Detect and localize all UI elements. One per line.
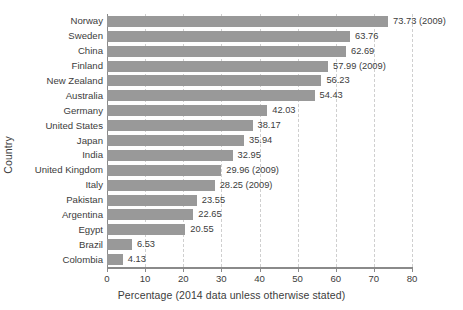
bar-value-label: 63.76 (355, 30, 378, 43)
bar-value-label: 29.96 (2009) (226, 164, 279, 177)
bar (107, 61, 328, 72)
bar-row: 57.99 (2009) (107, 60, 412, 74)
bar-value-label: 22.65 (198, 208, 221, 221)
bar-value-label: 6.53 (137, 238, 155, 251)
bar-row: 56.23 (107, 74, 412, 88)
category-label: Japan (77, 134, 103, 148)
bar-row: 35.94 (107, 134, 412, 148)
bar-row: 54.43 (107, 89, 412, 103)
x-tick-label: 60 (316, 273, 356, 284)
x-tick-label: 40 (240, 273, 280, 284)
category-label: United States (45, 119, 103, 133)
x-tick (412, 267, 413, 272)
category-label: India (82, 148, 103, 162)
bar-value-label: 23.55 (202, 194, 225, 207)
bar (107, 195, 197, 206)
x-tick (145, 267, 146, 272)
x-tick-label: 80 (392, 273, 432, 284)
bar-value-label: 38.17 (258, 119, 281, 132)
bar-row: 23.55 (107, 194, 412, 208)
bar (107, 150, 233, 161)
y-axis-category-labels: NorwaySwedenChinaFinlandNew ZealandAustr… (18, 14, 103, 267)
bar (107, 239, 132, 250)
bar-row: 22.65 (107, 208, 412, 222)
bar (107, 105, 267, 116)
x-tick-label: 20 (163, 273, 203, 284)
bar-row: 29.96 (2009) (107, 164, 412, 178)
x-tick-label: 50 (278, 273, 318, 284)
x-tick-label: 30 (201, 273, 241, 284)
bar (107, 90, 315, 101)
x-tick (183, 267, 184, 272)
bar-row: 62.69 (107, 45, 412, 59)
bar (107, 254, 123, 265)
bar (107, 224, 185, 235)
bar-value-label: 57.99 (2009) (333, 60, 386, 73)
bar-row: 38.17 (107, 119, 412, 133)
bar-row: 63.76 (107, 30, 412, 44)
bar (107, 31, 350, 42)
bar-value-label: 32.95 (238, 149, 261, 162)
bar-value-label: 54.43 (320, 89, 343, 102)
bar (107, 120, 253, 131)
gridline (412, 14, 413, 267)
bar-value-label: 35.94 (249, 134, 272, 147)
category-label: Finland (72, 59, 103, 73)
bar (107, 46, 346, 57)
category-label: Norway (70, 14, 103, 28)
category-label: United Kingdom (35, 163, 103, 177)
category-label: Italy (85, 178, 103, 192)
bar-value-label: 20.55 (190, 223, 213, 236)
category-label: Australia (66, 89, 103, 103)
plot-area: 73.73 (2009)63.7662.6957.99 (2009)56.235… (107, 14, 412, 267)
bar-row: 20.55 (107, 223, 412, 237)
bar-value-label: 4.13 (128, 253, 146, 266)
horizontal-bar-chart: Country NorwaySwedenChinaFinlandNew Zeal… (0, 0, 463, 310)
bar (107, 16, 388, 27)
bar-row: 6.53 (107, 238, 412, 252)
category-label: New Zealand (46, 74, 103, 88)
category-label: Germany (64, 104, 103, 118)
x-tick (107, 267, 108, 272)
bar (107, 75, 321, 86)
category-label: Egypt (78, 223, 103, 237)
bar (107, 165, 221, 176)
bar-row: 32.95 (107, 149, 412, 163)
x-tick-label: 70 (354, 273, 394, 284)
x-tick-label: 10 (125, 273, 165, 284)
bar-value-label: 73.73 (2009) (393, 15, 446, 28)
bar-value-label: 62.69 (351, 45, 374, 58)
x-tick (260, 267, 261, 272)
bar-value-label: 56.23 (326, 74, 349, 87)
category-label: China (78, 44, 103, 58)
bar-row: 73.73 (2009) (107, 15, 412, 29)
bar (107, 209, 193, 220)
x-tick (298, 267, 299, 272)
bar-value-label: 28.25 (2009) (220, 179, 273, 192)
x-tick (336, 267, 337, 272)
bar-value-label: 42.03 (272, 104, 295, 117)
category-label: Brazil (79, 238, 103, 252)
category-label: Pakistan (66, 193, 103, 207)
bar-row: 42.03 (107, 104, 412, 118)
bar-row: 28.25 (2009) (107, 179, 412, 193)
category-label: Sweden (68, 29, 103, 43)
category-label: Colombia (62, 253, 103, 267)
bar-row: 4.13 (107, 253, 412, 267)
x-tick (374, 267, 375, 272)
x-axis-title: Percentage (2014 data unless otherwise s… (0, 289, 463, 301)
bar (107, 135, 244, 146)
category-label: Argentina (62, 208, 103, 222)
x-tick (221, 267, 222, 272)
x-tick-label: 0 (87, 273, 127, 284)
bar (107, 180, 215, 191)
